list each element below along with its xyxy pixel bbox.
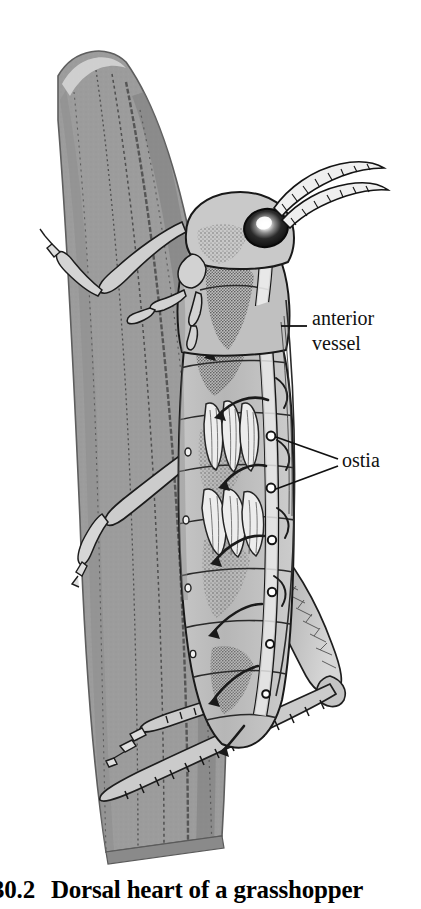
label-anterior-vessel-line1: anterior xyxy=(312,307,375,329)
dorsal-heart-grasshopper-figure: anterior vessel ostia xyxy=(0,0,421,909)
label-ostia: ostia xyxy=(342,449,380,471)
ostium-3 xyxy=(268,536,276,544)
label-anterior-vessel-line2: vessel xyxy=(312,332,361,354)
ostium-5 xyxy=(266,640,274,648)
ostium-1 xyxy=(267,432,276,441)
ostium-2 xyxy=(267,484,276,493)
label-ostia-text: ostia xyxy=(342,449,380,471)
figure-caption-text: Dorsal heart of a grasshopper xyxy=(51,876,363,903)
figure-number: 30.2 xyxy=(0,876,35,903)
ostium-4 xyxy=(268,588,276,596)
figure-caption: 30.2Dorsal heart of a grasshopper xyxy=(0,876,421,904)
ostium-6 xyxy=(262,690,270,698)
